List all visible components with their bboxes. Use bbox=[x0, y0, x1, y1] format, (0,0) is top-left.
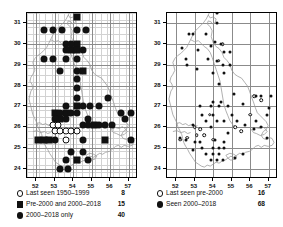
x-axis-tick bbox=[194, 178, 195, 181]
y-axis-tick-label: 29 bbox=[154, 61, 161, 67]
map-symbol-filled-circle bbox=[184, 57, 187, 60]
y-axis-tick-label: 24 bbox=[154, 165, 161, 171]
map-symbol-filled-circle bbox=[204, 119, 207, 122]
y-axis-tick bbox=[23, 43, 26, 44]
map-symbol-filled-circle bbox=[191, 148, 194, 151]
map-symbol-filled-circle bbox=[57, 68, 64, 75]
y-axis-tick-label: 26 bbox=[14, 123, 21, 129]
map-symbol-filled-circle bbox=[265, 136, 268, 139]
map-symbol-filled-circle bbox=[204, 153, 207, 156]
map-symbol-filled-circle bbox=[241, 153, 244, 156]
map-symbol-filled-circle bbox=[254, 119, 257, 122]
map-symbol-filled-circle bbox=[127, 109, 134, 116]
y-axis-tick-label: 25 bbox=[154, 144, 161, 150]
map-symbol-filled-circle bbox=[215, 159, 218, 162]
map-symbol-filled-circle bbox=[199, 140, 202, 143]
y-axis-tick bbox=[163, 64, 166, 65]
y-axis-tick-label: 26 bbox=[154, 123, 161, 129]
y-axis-tick-label: 29 bbox=[14, 61, 21, 67]
x-axis-tick bbox=[72, 178, 73, 181]
map-symbol-open-circle bbox=[260, 98, 264, 102]
map-symbol-filled-circle bbox=[122, 115, 129, 122]
map-symbol-filled-circle bbox=[62, 55, 69, 62]
x-axis-tick bbox=[212, 178, 213, 181]
y-axis-tick bbox=[23, 22, 26, 23]
map-symbol-filled-circle bbox=[269, 95, 272, 98]
map-symbol-filled-circle bbox=[40, 26, 47, 33]
legend-label: 2000–2018 only bbox=[26, 212, 109, 219]
map-symbol-filled-circle bbox=[219, 43, 222, 46]
x-axis-tick bbox=[268, 178, 269, 181]
map-symbol-filled-circle bbox=[109, 122, 116, 129]
map-symbol-filled-circle bbox=[215, 59, 218, 62]
y-axis-tick-label: 31 bbox=[154, 19, 161, 25]
map-symbol-filled-circle bbox=[223, 72, 226, 75]
open-circle-icon bbox=[154, 190, 166, 197]
legend-count: 8 bbox=[109, 190, 125, 197]
map-symbol-filled-circle bbox=[184, 138, 187, 141]
legend-left: Last seen 1950–1999 8 Pre-2000 and 2000–… bbox=[14, 188, 141, 221]
map-symbol-open-circle bbox=[62, 136, 69, 143]
map-symbol-filled-circle bbox=[217, 146, 220, 149]
map-symbol-filled-circle bbox=[227, 105, 230, 108]
map-symbol-filled-circle bbox=[68, 149, 75, 156]
map-symbol-filled-circle bbox=[191, 32, 194, 35]
map-symbol-filled-circle bbox=[73, 76, 80, 83]
map-symbol-filled-square bbox=[73, 14, 80, 21]
map-symbol-filled-circle bbox=[214, 138, 217, 141]
map-symbol-filled-circle bbox=[221, 159, 224, 162]
map-symbol-filled-circle bbox=[62, 157, 69, 164]
map-symbol-filled-circle bbox=[40, 55, 47, 62]
map-symbol-filled-square bbox=[73, 157, 80, 164]
map-symbol-filled-circle bbox=[214, 41, 217, 44]
y-axis-tick-label: 27 bbox=[154, 102, 161, 108]
legend-row: 2000–2018 only 40 bbox=[14, 210, 141, 221]
map-symbol-filled-circle bbox=[227, 132, 230, 135]
map-symbol-filled-circle bbox=[217, 82, 220, 85]
filled-square-icon bbox=[14, 201, 26, 208]
map-symbol-open-circle bbox=[239, 129, 243, 133]
map-symbol-filled-circle bbox=[57, 165, 64, 172]
map-symbol-filled-circle bbox=[210, 126, 213, 129]
map-symbol-filled-circle bbox=[85, 122, 92, 129]
x-axis-tick bbox=[91, 178, 92, 181]
map-symbol-filled-circle bbox=[73, 55, 80, 62]
map-symbol-filled-circle bbox=[49, 26, 56, 33]
map-symbol-filled-circle bbox=[243, 124, 246, 127]
map-symbol-filled-circle bbox=[59, 26, 66, 33]
x-axis-tick bbox=[128, 178, 129, 181]
y-axis-tick-label: 25 bbox=[14, 144, 21, 150]
legend-row: Pre-2000 and 2000–2018 15 bbox=[14, 199, 141, 210]
map-symbol-open-circle bbox=[248, 113, 252, 117]
map-symbol-filled-circle bbox=[199, 105, 202, 108]
map-symbol-filled-circle bbox=[267, 107, 270, 110]
map-symbol-filled-circle bbox=[201, 146, 204, 149]
map-symbol-filled-circle bbox=[204, 32, 207, 35]
map-symbol-open-circle bbox=[199, 127, 203, 131]
map-symbol-filled-circle bbox=[64, 165, 71, 172]
x-axis-tick bbox=[175, 178, 176, 181]
map-symbol-filled-square bbox=[101, 136, 108, 143]
map-symbol-filled-circle bbox=[223, 140, 226, 143]
legend-count: 40 bbox=[109, 212, 125, 219]
map-symbol-filled-circle bbox=[51, 136, 58, 143]
y-axis-tick-label: 30 bbox=[14, 40, 21, 46]
y-axis-tick bbox=[163, 126, 166, 127]
map-symbol-filled-circle bbox=[217, 153, 220, 156]
legend-label: Pre-2000 and 2000–2018 bbox=[26, 201, 109, 208]
map-symbol-filled-circle bbox=[221, 63, 224, 66]
legend-count: 15 bbox=[109, 201, 125, 208]
map-symbol-filled-circle bbox=[212, 146, 215, 149]
x-axis-tick bbox=[109, 178, 110, 181]
map-symbol-filled-circle bbox=[193, 140, 196, 143]
map-symbol-filled-circle bbox=[62, 115, 69, 122]
map-plot-area-right bbox=[166, 12, 277, 178]
map-symbol-filled-circle bbox=[210, 45, 213, 48]
map-symbol-filled-circle bbox=[228, 51, 231, 54]
x-axis-tick bbox=[54, 178, 55, 181]
map-symbol-filled-circle bbox=[252, 128, 255, 131]
map-symbol-filled-circle bbox=[79, 47, 86, 54]
map-symbol-filled-circle bbox=[101, 122, 108, 129]
map-symbol-filled-circle bbox=[178, 136, 181, 139]
map-symbol-filled-circle bbox=[223, 51, 226, 54]
